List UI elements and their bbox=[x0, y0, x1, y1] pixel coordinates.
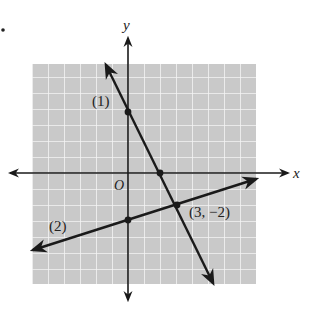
coordinate-plane-figure: x y O (1) (2) (3, −2) bbox=[0, 0, 309, 312]
grid-background bbox=[32, 64, 256, 284]
problem-marker-dot bbox=[1, 28, 5, 32]
point-y-intercept-line-1 bbox=[125, 109, 132, 116]
y-axis-label: y bbox=[121, 17, 130, 33]
point-x-intercept-line-1 bbox=[157, 170, 164, 177]
origin-label: O bbox=[114, 178, 124, 193]
intersection-label: (3, −2) bbox=[189, 204, 230, 221]
point-y-intercept-line-2 bbox=[125, 217, 132, 224]
point-intersection bbox=[174, 202, 181, 209]
x-axis-label: x bbox=[292, 165, 300, 181]
line-2-label: (2) bbox=[49, 218, 67, 235]
line-1-label: (1) bbox=[92, 93, 110, 110]
